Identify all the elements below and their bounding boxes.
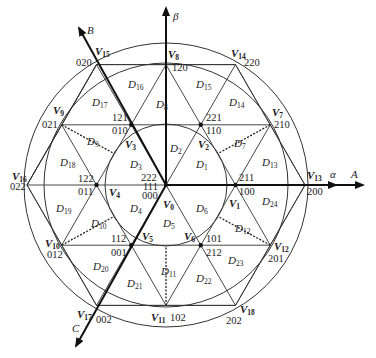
axis-label-b: B — [87, 24, 94, 36]
v1-code-1: 211 — [239, 172, 254, 183]
v17-label: V17 — [77, 308, 92, 322]
diagram-canvas: β α A B C 222 111 000 V0 211 100 V1 221 … — [0, 0, 376, 358]
v13-label: V13 — [307, 169, 322, 183]
v7-code: 210 — [274, 119, 290, 130]
v3-code-2: 010 — [112, 125, 128, 136]
v10-code: 012 — [47, 249, 63, 260]
region-d22: D22 — [195, 272, 212, 286]
v8-label: V8 — [168, 48, 179, 62]
v17-code: 002 — [96, 314, 112, 325]
axis-label-alpha: α — [330, 168, 336, 180]
region-d4: D4 — [129, 202, 142, 216]
v14-code: 220 — [244, 57, 260, 68]
v16-code: 022 — [10, 181, 26, 192]
region-d5: D5 — [162, 217, 175, 231]
v6-code-1: 101 — [206, 233, 222, 244]
v0-code-3: 000 — [142, 190, 158, 201]
region-d9: D9 — [86, 135, 99, 149]
v0-label: V0 — [163, 198, 174, 212]
v18-label: V18 — [240, 303, 255, 317]
v4-label: V4 — [109, 186, 120, 200]
v2-code-1: 221 — [206, 112, 222, 123]
v9-label: V9 — [53, 104, 64, 118]
v7-label: V7 — [272, 106, 283, 120]
v3-label: V3 — [125, 138, 136, 152]
region-d12: D12 — [234, 222, 251, 236]
v4-code-1: 122 — [78, 173, 94, 184]
v1-label: V1 — [229, 197, 240, 211]
v12-code: 201 — [268, 253, 284, 264]
region-d1: D1 — [195, 158, 208, 172]
v9-code: 021 — [42, 119, 58, 130]
region-d21: D21 — [126, 277, 143, 291]
region-d2: D2 — [169, 142, 182, 156]
v1-code-2: 100 — [239, 186, 255, 197]
region-d16: D16 — [127, 78, 144, 92]
region-d15: D15 — [195, 78, 212, 92]
v4-code-2: 011 — [78, 186, 93, 197]
v12-label: V12 — [274, 240, 289, 254]
region-d10: D10 — [90, 217, 107, 231]
region-d17: D17 — [91, 96, 108, 110]
region-d19: D19 — [55, 202, 72, 216]
region-d6: D6 — [195, 202, 208, 216]
region-d3: D3 — [129, 158, 142, 172]
v15-code: 020 — [76, 57, 92, 68]
v3-code-1: 121 — [112, 112, 128, 123]
region-d18: D18 — [59, 156, 76, 170]
region-d20: D20 — [92, 260, 109, 274]
axis-label-beta: β — [172, 10, 179, 22]
v15-label: V15 — [95, 45, 110, 59]
region-d13: D13 — [261, 156, 278, 170]
v6-code-2: 212 — [206, 247, 222, 258]
axis-label-a: A — [350, 168, 358, 180]
space-vector-diagram: β α A B C 222 111 000 V0 211 100 V1 221 … — [0, 0, 376, 358]
v5-code-1: 112 — [111, 233, 126, 244]
v13-code: 200 — [307, 186, 323, 197]
v2-code-2: 110 — [206, 125, 221, 136]
axis-label-c: C — [72, 322, 80, 334]
v11-label: V11 — [151, 311, 166, 325]
v8-code: 120 — [172, 62, 188, 73]
region-d11: D11 — [160, 265, 176, 279]
region-d14: D14 — [228, 96, 245, 110]
region-d24: D24 — [261, 195, 278, 209]
v11-code: 102 — [170, 312, 186, 323]
v5-label: V5 — [142, 230, 153, 244]
region-d23: D23 — [227, 254, 244, 268]
v18-code: 202 — [226, 315, 242, 326]
v5-code-2: 001 — [111, 247, 127, 258]
